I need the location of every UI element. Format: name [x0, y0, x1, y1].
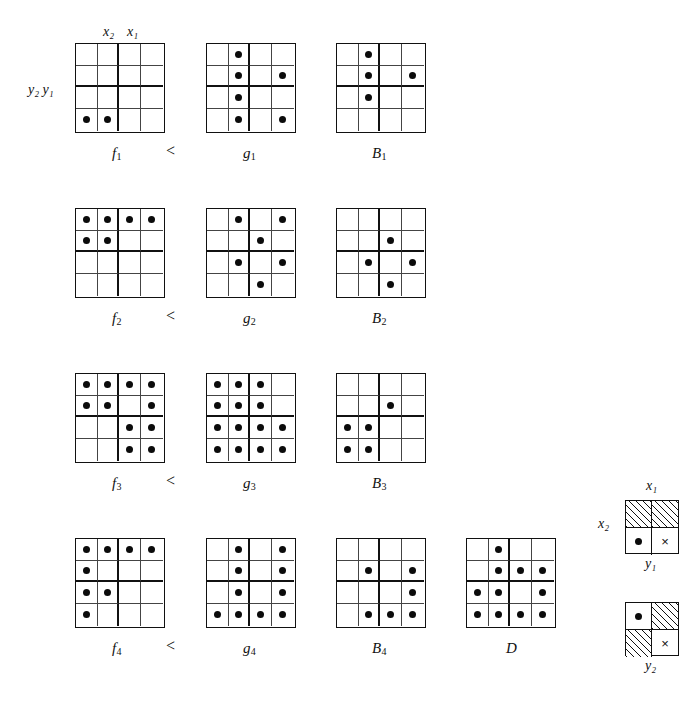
grid-cell: [207, 604, 229, 626]
grid-cell: [250, 274, 272, 296]
grid-cell: [119, 66, 141, 88]
grid-cell: [272, 604, 294, 626]
grid-B4: [336, 538, 426, 628]
dot-marker: [235, 424, 242, 431]
grid-cell: [402, 66, 424, 88]
dot-marker: [365, 72, 372, 79]
grid-cell: [337, 274, 359, 296]
grid-cell: [229, 252, 251, 274]
grid-row: [207, 374, 295, 396]
grid-cell: [119, 209, 141, 231]
dot-marker: [365, 94, 372, 101]
dot-marker: [235, 402, 242, 409]
grid-cell: [141, 66, 163, 88]
grid-cell: [141, 582, 163, 604]
grid-cell: [141, 209, 163, 231]
grid-row: [76, 252, 164, 274]
dot-marker: [517, 567, 524, 574]
grid-cell: [272, 539, 294, 561]
grid-cell: [467, 561, 489, 583]
dot-marker: [83, 611, 90, 618]
legend-cell-hatch: [652, 501, 678, 528]
grid-cell: [337, 604, 359, 626]
grid-row: [207, 417, 295, 439]
grid-cell: [98, 582, 120, 604]
dot-marker: [387, 237, 394, 244]
grid-cell: [402, 417, 424, 439]
grid-g2: [206, 208, 296, 298]
dot-marker: [495, 567, 502, 574]
dot-marker: [214, 446, 221, 453]
grid-cell: [250, 44, 272, 66]
grid-cell: [272, 396, 294, 418]
grid-cell: [250, 374, 272, 396]
grid-cell: [229, 274, 251, 296]
dot-marker: [344, 424, 351, 431]
cross-marker-icon: ×: [652, 630, 678, 657]
dot-marker: [83, 567, 90, 574]
legend-y2-bottom-label: y₂: [645, 658, 656, 674]
legend-cell-cross: ×: [652, 528, 678, 555]
grid-row: [337, 604, 425, 626]
dot-marker: [635, 538, 642, 545]
dot-marker: [126, 546, 133, 553]
grid-row: [337, 582, 425, 604]
dot-marker: [148, 446, 155, 453]
grid-row: [207, 539, 295, 561]
legend-cell-hatch: [626, 501, 652, 528]
grid-frame-B4: [336, 538, 426, 628]
grid-cell: [207, 44, 229, 66]
dot-marker: [83, 216, 90, 223]
dot-marker: [279, 116, 286, 123]
grid-cell: [141, 604, 163, 626]
grid-cell: [337, 396, 359, 418]
grid-frame-g1: [206, 43, 296, 133]
dot-marker: [83, 116, 90, 123]
grid-cell: [229, 231, 251, 253]
legend-y1: ×: [625, 500, 679, 554]
grid-cell: [532, 582, 554, 604]
grid-cell: [98, 44, 120, 66]
grid-cell: [229, 417, 251, 439]
grid-row: [207, 109, 295, 131]
grid-cell: [229, 374, 251, 396]
grid-row: [467, 582, 555, 604]
grid-cell: [359, 582, 381, 604]
grid-row: [207, 66, 295, 88]
grid-cell: [337, 417, 359, 439]
dot-marker: [83, 237, 90, 244]
grid-cell: [510, 539, 532, 561]
grid-cell: [380, 439, 402, 461]
grid-frame-B2: [336, 208, 426, 298]
grid-row: [467, 604, 555, 626]
grid-row: [76, 604, 164, 626]
grid-cell: [467, 582, 489, 604]
grid-row: [76, 374, 164, 396]
grid-cell: [337, 44, 359, 66]
dot-marker: [104, 116, 111, 123]
grid-cell: [359, 87, 381, 109]
grid-frame-D: [466, 538, 556, 628]
legend-row: ×: [626, 630, 678, 657]
grid-g4: [206, 538, 296, 628]
grid-cell: [272, 66, 294, 88]
grid-cell: [229, 396, 251, 418]
dot-marker: [214, 424, 221, 431]
grid-cell: [98, 604, 120, 626]
grid-cell: [250, 87, 272, 109]
dot-marker: [235, 94, 242, 101]
grid-row: [337, 374, 425, 396]
grid-row: [467, 539, 555, 561]
less-than-symbol-1: <: [166, 142, 175, 160]
dot-marker: [235, 259, 242, 266]
dot-marker: [474, 589, 481, 596]
grid-cell: [98, 439, 120, 461]
grid-frame-f3: [75, 373, 165, 463]
grid-cell: [119, 439, 141, 461]
dot-marker: [474, 611, 481, 618]
grid-cell: [467, 539, 489, 561]
grid-cell: [272, 209, 294, 231]
dot-marker: [104, 589, 111, 596]
dot-marker: [148, 381, 155, 388]
grid-cell: [229, 44, 251, 66]
